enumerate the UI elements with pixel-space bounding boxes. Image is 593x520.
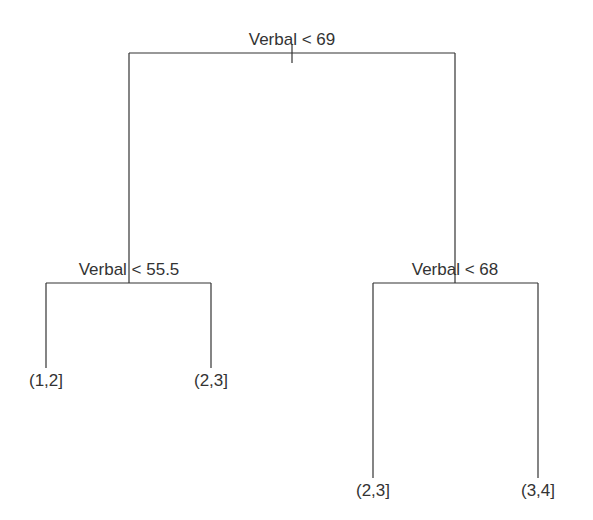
leaf-2-3-left: (2,3] [194, 371, 228, 390]
decision-tree: Verbal < 69 Verbal < 55.5 Verbal < 68 (1… [0, 0, 593, 520]
left-split-label: Verbal < 55.5 [79, 260, 180, 279]
leaf-1-2: (1,2] [29, 371, 63, 390]
root-split-label: Verbal < 69 [249, 30, 336, 49]
leaf-3-4: (3,4] [521, 481, 555, 500]
leaf-2-3-right: (2,3] [356, 481, 390, 500]
right-split-label: Verbal < 68 [412, 260, 499, 279]
